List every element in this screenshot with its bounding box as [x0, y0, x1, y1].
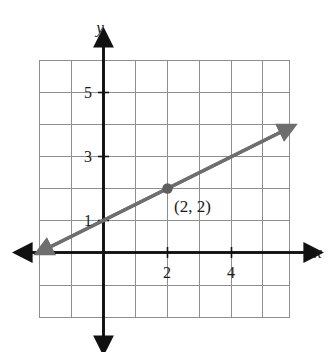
coordinate-plane-svg: 5 3 1 2 4 y x (2, 2)	[0, 0, 335, 352]
x-tick-label-2: 2	[163, 264, 171, 281]
y-tick-label-3: 3	[84, 148, 92, 165]
data-point-marker	[162, 183, 172, 193]
y-tick-label-5: 5	[84, 84, 92, 101]
point-annotation-label: (2, 2)	[174, 197, 211, 216]
x-tick-label-4: 4	[227, 264, 235, 281]
y-tick-label-1: 1	[84, 212, 92, 229]
y-axis-label: y	[94, 18, 104, 37]
x-axis-label: x	[313, 243, 322, 262]
graph-figure: 5 3 1 2 4 y x (2, 2)	[0, 0, 335, 352]
